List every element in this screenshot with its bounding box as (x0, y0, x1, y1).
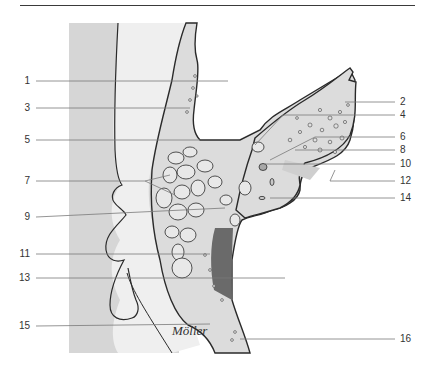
label-14: 14 (400, 193, 411, 203)
anatomical-diagram: Möller (0, 0, 432, 369)
label-13: 13 (0, 273, 30, 283)
label-1: 1 (0, 76, 30, 86)
artist-signature: Möller (171, 323, 208, 338)
label-8: 8 (400, 145, 406, 155)
label-6: 6 (400, 132, 406, 142)
label-9: 9 (0, 212, 30, 222)
label-5: 5 (0, 135, 30, 145)
label-15: 15 (0, 321, 30, 331)
label-16: 16 (400, 334, 411, 344)
label-3: 3 (0, 103, 30, 113)
label-10: 10 (400, 159, 411, 169)
label-11: 11 (0, 249, 30, 259)
label-7: 7 (0, 176, 30, 186)
label-4: 4 (400, 110, 406, 120)
label-2: 2 (400, 97, 406, 107)
label-12: 12 (400, 176, 411, 186)
